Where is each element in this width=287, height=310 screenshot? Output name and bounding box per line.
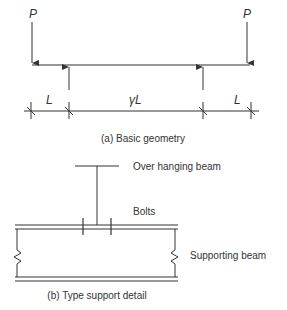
dim-label-right: L: [234, 93, 241, 107]
caption-b: (b) Type support detail: [47, 290, 146, 301]
break-line-right: [171, 229, 178, 277]
support-detail: Over hanging beam Bolts Supporting beam …: [14, 161, 266, 301]
caption-a: (a) Basic geometry: [101, 133, 185, 144]
dim-label-middle: γL: [129, 93, 142, 107]
label-supporting-beam: Supporting beam: [190, 250, 266, 261]
load-label-right: P: [243, 7, 251, 21]
basic-geometry: P P L γL L (a) Basic geometry: [24, 7, 259, 144]
load-label-left: P: [29, 7, 37, 21]
break-line-left: [14, 229, 21, 277]
label-overhanging-beam: Over hanging beam: [133, 161, 221, 172]
beam-diagram: P P L γL L (a) Basic geometry Over hangi…: [0, 0, 287, 310]
label-bolts: Bolts: [133, 206, 155, 217]
dim-label-left: L: [46, 93, 53, 107]
